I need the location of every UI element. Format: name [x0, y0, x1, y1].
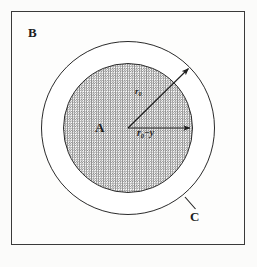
label-radius-outer-sub: 0 — [139, 91, 142, 97]
annotation-overlay — [0, 0, 257, 267]
label-radius-inner: r0−y — [137, 129, 154, 139]
label-radius-inner-tail: −y — [144, 128, 154, 138]
label-region-a: A — [95, 121, 104, 134]
label-region-c: C — [190, 210, 199, 223]
c-leader-line — [185, 197, 196, 209]
figure-container: B A C r0 r0−y — [0, 0, 257, 267]
label-region-b: B — [28, 26, 37, 39]
outer-radius-arrow — [128, 69, 189, 129]
label-radius-outer: r0 — [135, 87, 142, 97]
